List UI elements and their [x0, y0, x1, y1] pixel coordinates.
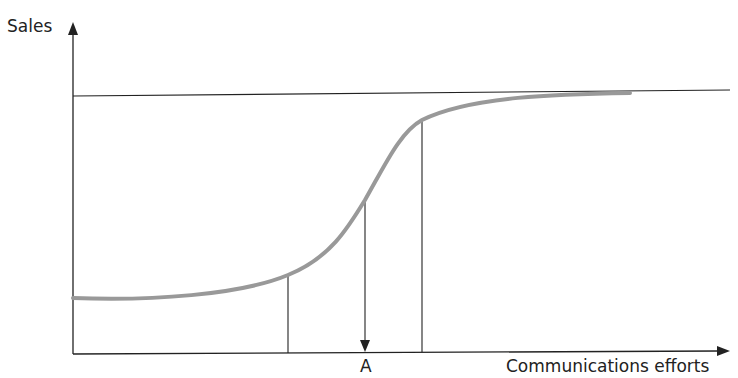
- x-axis: [73, 351, 718, 354]
- down-arrow-icon: [360, 340, 370, 352]
- x-axis-arrowhead-icon: [717, 346, 730, 356]
- sales-response-curve: [73, 93, 630, 299]
- y-axis-label: Sales: [7, 16, 52, 36]
- x-axis-label: Communications efforts: [506, 356, 709, 376]
- point-a-label: A: [360, 356, 372, 376]
- y-axis-arrowhead-icon: [68, 22, 78, 35]
- s-curve-diagram: [0, 0, 738, 378]
